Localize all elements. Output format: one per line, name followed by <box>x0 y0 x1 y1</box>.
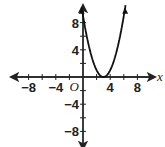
svg-text:8: 8 <box>72 16 79 31</box>
svg-text:O: O <box>70 79 80 94</box>
svg-text:x: x <box>156 69 163 84</box>
svg-text:8: 8 <box>134 80 141 95</box>
graph: −8−44884−4−8Ox <box>0 0 165 147</box>
svg-text:4: 4 <box>107 80 115 95</box>
svg-text:−8: −8 <box>21 80 36 95</box>
axes <box>12 6 155 147</box>
svg-text:−4: −4 <box>48 80 64 95</box>
svg-text:−8: −8 <box>64 124 79 139</box>
svg-text:4: 4 <box>72 43 80 58</box>
svg-text:−4: −4 <box>64 97 80 112</box>
parabola-curve <box>79 5 129 77</box>
